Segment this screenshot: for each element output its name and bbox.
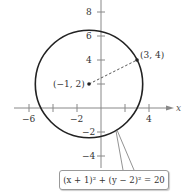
y-tick-label-neg2: −2 [82,127,95,137]
center-point-label: (−1, 2) [53,79,85,89]
edge-point [135,58,139,62]
y-tick-label-8: 8 [86,7,92,17]
x-axis-label: x [176,103,181,113]
center-point [87,82,91,86]
equation-label: (x + 1)² + (y − 2)² = 20 [59,170,169,190]
x-tick-label-neg6: −6 [22,114,36,124]
radius-line [89,60,137,84]
y-tick-label-neg4: −4 [82,151,96,161]
x-tick-label-neg2: −2 [70,114,83,124]
callout-lines [116,130,134,170]
circle-graph: x −6 −2 4 8 6 4 −2 −4 (−1, 2) (3, 4) [0,0,189,194]
x-axis-arrow-icon [166,106,174,111]
edge-point-label: (3, 4) [140,50,164,60]
x-tick-label-4: 4 [146,114,152,124]
y-tick-label-4: 4 [86,55,92,65]
y-tick-label-6: 6 [86,31,92,41]
